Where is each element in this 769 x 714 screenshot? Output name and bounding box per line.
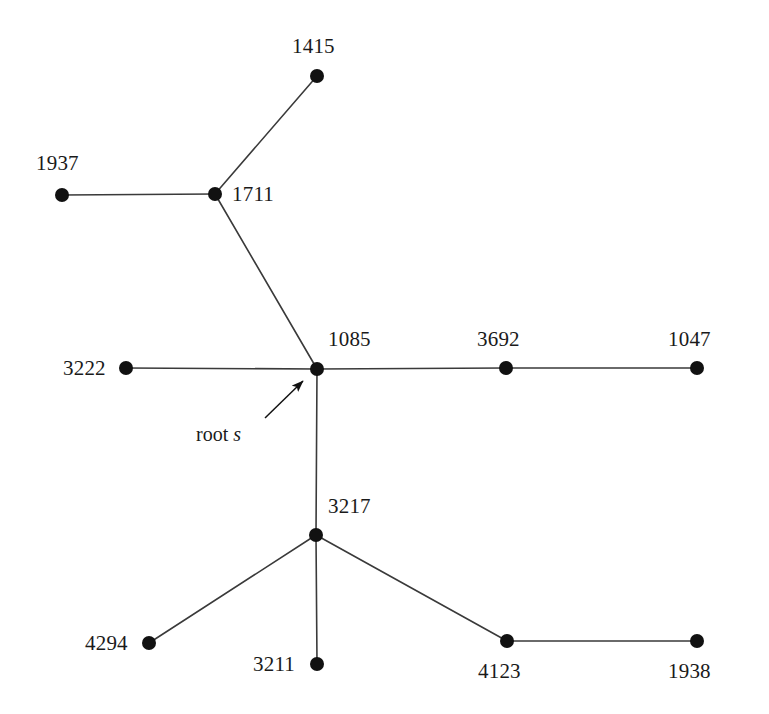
graph-node[interactable] xyxy=(310,362,324,376)
node-label-1711: 1711 xyxy=(232,184,274,205)
node-label-3222: 3222 xyxy=(63,358,106,379)
node-label-4123: 4123 xyxy=(478,661,521,682)
graph-canvas xyxy=(0,0,769,714)
graph-edge xyxy=(316,535,507,641)
annotation-arrow-layer xyxy=(265,381,303,418)
graph-node[interactable] xyxy=(142,636,156,650)
edge-layer xyxy=(62,76,697,664)
node-label-3211: 3211 xyxy=(253,654,295,675)
node-label-4294: 4294 xyxy=(85,633,128,654)
graph-edge xyxy=(316,535,317,664)
graph-edge xyxy=(62,194,215,195)
tree-diagram-figure: 1415171119371085322236921047321742943211… xyxy=(0,0,769,714)
node-label-1047: 1047 xyxy=(668,329,711,350)
graph-edge xyxy=(215,76,317,194)
graph-node[interactable] xyxy=(310,657,324,671)
node-label-3217: 3217 xyxy=(328,496,371,517)
graph-edge xyxy=(149,535,316,643)
node-label-1938: 1938 xyxy=(668,661,711,682)
graph-edge xyxy=(316,369,317,535)
root-annotation-variable: s xyxy=(233,423,241,445)
graph-node[interactable] xyxy=(690,361,704,375)
graph-node[interactable] xyxy=(499,361,513,375)
graph-node[interactable] xyxy=(309,528,323,542)
node-label-3692: 3692 xyxy=(477,329,520,350)
graph-edge xyxy=(126,368,317,369)
graph-node[interactable] xyxy=(119,361,133,375)
node-label-1085: 1085 xyxy=(328,329,371,350)
root-annotation-label: root s xyxy=(196,424,241,444)
graph-node[interactable] xyxy=(208,187,222,201)
graph-edge xyxy=(317,368,506,369)
graph-edge xyxy=(215,194,317,369)
node-layer xyxy=(55,69,704,671)
root-annotation-prefix: root xyxy=(196,423,233,445)
graph-node[interactable] xyxy=(310,69,324,83)
node-label-1937: 1937 xyxy=(36,153,79,174)
graph-node[interactable] xyxy=(500,634,514,648)
graph-node[interactable] xyxy=(55,188,69,202)
graph-node[interactable] xyxy=(690,634,704,648)
root-pointer-arrow-icon xyxy=(265,381,303,418)
node-label-1415: 1415 xyxy=(292,36,335,57)
